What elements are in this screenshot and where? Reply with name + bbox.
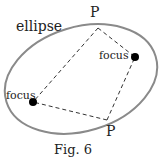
right-focus-label: focus	[99, 50, 129, 61]
dashed-lines	[33, 28, 135, 120]
line-pbottom-to-left-focus	[33, 102, 107, 120]
figure-caption: Fig. 6	[54, 143, 92, 156]
right-focus-dot	[131, 53, 139, 61]
point-p-top-label: P	[90, 5, 99, 19]
ellipse-label: ellipse	[16, 19, 62, 33]
left-focus-label: focus	[6, 90, 36, 101]
point-p-bottom-label: P	[106, 124, 115, 138]
